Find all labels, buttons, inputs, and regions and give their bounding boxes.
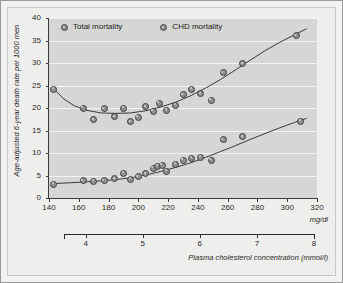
data-point-total-mortality	[163, 107, 170, 114]
data-point-chd-mortality	[120, 170, 127, 177]
data-point-chd-mortality	[208, 157, 215, 164]
x-tick-mark	[317, 199, 318, 202]
secondary-axis-end-cap	[64, 234, 65, 239]
data-point-total-mortality	[80, 105, 87, 112]
data-point-chd-mortality	[127, 176, 134, 183]
secondary-tick-mark	[200, 234, 201, 238]
secondary-x-axis-line	[64, 234, 314, 235]
x-tick-mark	[228, 199, 229, 202]
x-axis-unit-label: mg/dl	[310, 215, 328, 224]
data-point-chd-mortality	[297, 118, 304, 125]
secondary-tick-label: 7	[245, 239, 269, 248]
x-tick-label: 140	[36, 204, 62, 212]
plot-area	[49, 18, 317, 198]
data-point-chd-mortality	[220, 136, 227, 143]
y-tick-label: 40	[23, 14, 41, 22]
y-tick-label: 5	[23, 172, 41, 180]
y-tick-mark	[46, 108, 49, 109]
y-tick-label: 30	[23, 59, 41, 67]
data-point-chd-mortality	[90, 178, 97, 185]
y-tick-mark	[46, 176, 49, 177]
data-point-chd-mortality	[101, 177, 108, 184]
secondary-x-axis-title: Plasma cholesterol concentration (mmol/l…	[188, 253, 328, 262]
y-tick-mark	[46, 41, 49, 42]
data-point-total-mortality	[293, 32, 300, 39]
y-axis-title: Age-adjusted 6-year death rate per 1000 …	[12, 27, 21, 177]
secondary-tick-mark	[143, 234, 144, 238]
chart-legend: Total mortality CHD mortality	[61, 23, 222, 31]
secondary-tick-mark	[314, 234, 315, 238]
fit-curve	[53, 118, 306, 183]
x-tick-label: 320	[304, 204, 330, 212]
y-tick-label: 35	[23, 37, 41, 45]
secondary-tick-label: 5	[131, 239, 155, 248]
x-tick-mark	[79, 199, 80, 202]
data-point-chd-mortality	[172, 161, 179, 168]
data-point-total-mortality	[180, 91, 187, 98]
x-tick-mark	[109, 199, 110, 202]
x-tick-label: 160	[66, 204, 92, 212]
data-point-total-mortality	[101, 105, 108, 112]
x-tick-mark	[198, 199, 199, 202]
legend-marker-icon	[61, 24, 68, 31]
y-tick-mark	[46, 63, 49, 64]
secondary-tick-label: 6	[188, 239, 212, 248]
figure-container: 0510152025303540 14016018020022024026028…	[0, 0, 343, 283]
x-tick-label: 260	[215, 204, 241, 212]
y-tick-mark	[46, 131, 49, 132]
secondary-tick-label: 4	[74, 239, 98, 248]
x-tick-label: 220	[155, 204, 181, 212]
x-tick-label: 280	[244, 204, 270, 212]
x-tick-label: 300	[274, 204, 300, 212]
legend-item-chd-mortality: CHD mortality	[160, 23, 222, 31]
data-point-chd-mortality	[80, 177, 87, 184]
x-tick-mark	[138, 199, 139, 202]
x-tick-label: 240	[185, 204, 211, 212]
data-point-total-mortality	[239, 60, 246, 67]
y-tick-label: 20	[23, 104, 41, 112]
data-point-total-mortality	[172, 102, 179, 109]
data-point-total-mortality	[120, 105, 127, 112]
x-tick-mark	[49, 199, 50, 202]
data-point-total-mortality	[156, 100, 163, 107]
y-tick-label: 25	[23, 82, 41, 90]
y-tick-label: 15	[23, 127, 41, 135]
y-tick-label: 10	[23, 149, 41, 157]
legend-label-chd-mortality: CHD mortality	[172, 23, 222, 31]
legend-item-total-mortality: Total mortality	[61, 23, 122, 31]
x-tick-label: 180	[96, 204, 122, 212]
x-tick-mark	[168, 199, 169, 202]
data-point-chd-mortality	[197, 154, 204, 161]
legend-label-total-mortality: Total mortality	[73, 23, 122, 31]
fit-curves-layer	[49, 18, 317, 198]
data-point-total-mortality	[50, 86, 57, 93]
y-tick-label: 0	[23, 194, 41, 202]
data-point-chd-mortality	[50, 181, 57, 188]
y-tick-mark	[46, 153, 49, 154]
fit-curve	[53, 29, 306, 114]
x-axis-line	[48, 198, 318, 199]
y-tick-mark	[46, 86, 49, 87]
data-point-total-mortality	[150, 108, 157, 115]
x-tick-label: 200	[125, 204, 151, 212]
legend-marker-icon	[160, 24, 167, 31]
data-point-chd-mortality	[180, 157, 187, 164]
x-tick-mark	[287, 199, 288, 202]
y-tick-mark	[46, 18, 49, 19]
data-point-chd-mortality	[163, 168, 170, 175]
data-point-total-mortality	[208, 97, 215, 104]
data-point-total-mortality	[111, 113, 118, 120]
secondary-tick-label: 8	[302, 239, 326, 248]
secondary-tick-mark	[257, 234, 258, 238]
x-tick-mark	[257, 199, 258, 202]
data-point-total-mortality	[135, 114, 142, 121]
secondary-tick-mark	[86, 234, 87, 238]
